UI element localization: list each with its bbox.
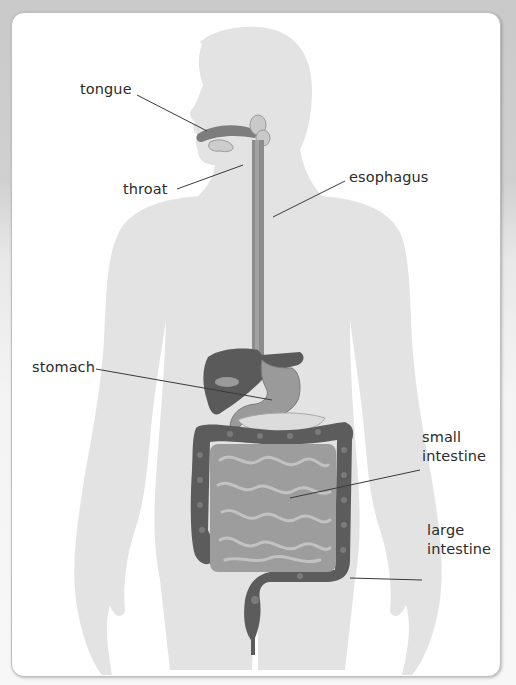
label-small-intestine: small intestine [422,428,486,466]
label-large-intestine-line2: intestine [427,540,491,559]
label-tongue: tongue [80,80,132,99]
label-large-intestine: large intestine [427,521,491,559]
label-esophagus: esophagus [349,168,428,187]
label-throat: throat [123,180,168,199]
label-small-intestine-line2: intestine [422,447,486,466]
label-small-intestine-line1: small [422,428,486,447]
digestive-system-illustration [0,0,516,685]
label-stomach: stomach [32,358,95,377]
label-large-intestine-line1: large [427,521,491,540]
